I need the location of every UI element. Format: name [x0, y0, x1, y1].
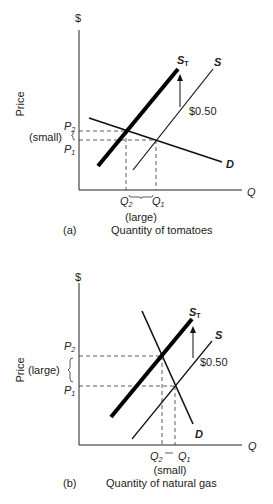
tax-label: $0.50: [200, 356, 228, 368]
panel-a: $ Q Price D S ST $0.50 P2 P1 (small) Q2 …: [14, 12, 256, 236]
y-axis-symbol: $: [75, 12, 81, 24]
y-axis-symbol: $: [75, 271, 81, 283]
taxed-supply-label: ST: [189, 306, 201, 319]
supply-label: S: [214, 56, 222, 68]
tax-incidence-diagram: $ Q Price D S ST $0.50 P2 P1 (small) Q2 …: [0, 0, 273, 504]
y-axis-title: Price: [14, 91, 26, 116]
price-change-note: (small): [29, 131, 62, 143]
price-brace: [68, 358, 73, 382]
x-axis-symbol: Q: [247, 186, 256, 198]
quantity-brace: [129, 195, 153, 199]
q2-label: Q2: [150, 450, 163, 463]
taxed-supply-label: ST: [177, 54, 189, 67]
panel-b: $ Q Price D S ST $0.50 P2 P1 (large) Q2 …: [14, 271, 257, 489]
demand-label: D: [226, 158, 234, 170]
p2-label: P2: [64, 340, 75, 353]
q1-label: Q1: [152, 195, 165, 208]
x-axis-title: Quantity of natural gas: [106, 477, 217, 489]
arrow-head-icon: [190, 326, 196, 333]
x-axis-symbol: Q: [248, 440, 257, 452]
x-axis-title: Quantity of tomatoes: [111, 224, 213, 236]
y-axis-title: Price: [14, 357, 26, 382]
quantity-change-note: (small): [154, 464, 187, 476]
panel-label: (b): [63, 477, 76, 489]
p1-label: P1: [64, 143, 75, 156]
p1-label: P1: [64, 384, 75, 397]
panel-label: (a): [63, 224, 76, 236]
supply-label: S: [215, 329, 223, 341]
price-change-note: (large): [28, 364, 60, 376]
demand-label: D: [195, 428, 203, 440]
quantity-change-note: (large): [125, 211, 157, 223]
q1-label: Q1: [178, 450, 191, 463]
arrow-head-icon: [177, 74, 183, 81]
taxed-supply-curve: [98, 69, 178, 166]
tax-label: $0.50: [189, 105, 217, 117]
